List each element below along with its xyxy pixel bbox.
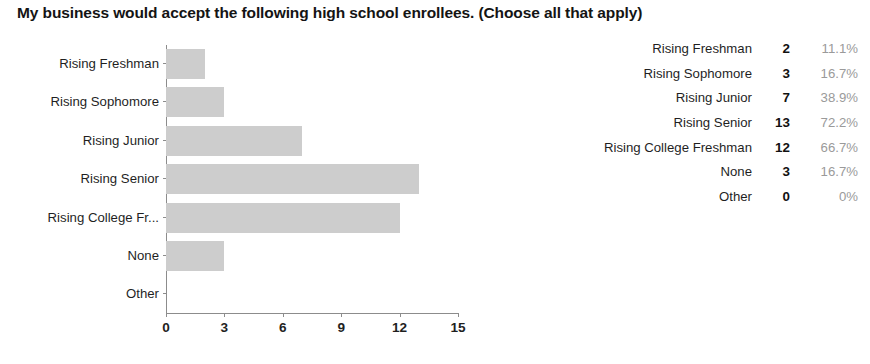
bar-category-label: Rising College Fr... xyxy=(48,203,159,233)
bar-row: Rising Sophomore xyxy=(166,83,458,121)
table-row: Rising Sophomore316.7% xyxy=(500,66,858,91)
x-axis-tick-label: 9 xyxy=(337,320,345,335)
bar-category-label: Rising Senior xyxy=(81,164,159,194)
bar xyxy=(166,241,224,271)
table-cell-count: 3 xyxy=(764,164,806,179)
table-cell-percent: 16.7% xyxy=(806,164,858,179)
bar xyxy=(166,87,224,117)
x-axis-tick-label: 3 xyxy=(221,320,229,335)
x-axis-tick xyxy=(283,313,284,317)
table-cell-percent: 72.2% xyxy=(806,115,858,130)
table-cell-label: Rising College Freshman xyxy=(500,140,764,155)
x-axis-tick xyxy=(458,313,459,317)
bar-chart: Rising FreshmanRising SophomoreRising Ju… xyxy=(0,40,500,360)
table-row: Other00% xyxy=(500,189,858,214)
table-cell-count: 3 xyxy=(764,66,806,81)
y-axis-tick xyxy=(163,293,166,294)
bar xyxy=(166,126,302,156)
plot-area: Rising FreshmanRising SophomoreRising Ju… xyxy=(166,45,458,313)
bar-row: Rising Senior xyxy=(166,160,458,198)
table-cell-label: Rising Senior xyxy=(500,115,764,130)
table-cell-count: 12 xyxy=(764,140,806,155)
table-row: Rising Senior1372.2% xyxy=(500,115,858,140)
bar-row: Rising College Fr... xyxy=(166,199,458,237)
table-cell-count: 13 xyxy=(764,115,806,130)
data-table: Rising Freshman211.1%Rising Sophomore316… xyxy=(500,41,858,214)
bar-category-label: Rising Freshman xyxy=(59,49,159,79)
x-axis-tick-label: 6 xyxy=(279,320,287,335)
x-axis-tick xyxy=(400,313,401,317)
bar xyxy=(166,49,205,79)
page-title: My business would accept the following h… xyxy=(17,4,642,22)
x-axis-tick-label: 0 xyxy=(162,320,170,335)
table-row: Rising Freshman211.1% xyxy=(500,41,858,66)
table-cell-percent: 66.7% xyxy=(806,140,858,155)
bar-row: Rising Junior xyxy=(166,122,458,160)
bar-category-label: Rising Junior xyxy=(83,126,159,156)
table-row: Rising Junior738.9% xyxy=(500,90,858,115)
bar-category-label: None xyxy=(127,241,159,271)
table-cell-label: Rising Junior xyxy=(500,90,764,105)
table-row: None316.7% xyxy=(500,164,858,189)
table-cell-label: None xyxy=(500,164,764,179)
table-cell-count: 7 xyxy=(764,90,806,105)
table-cell-percent: 0% xyxy=(806,189,858,204)
table-cell-count: 0 xyxy=(764,189,806,204)
table-cell-label: Rising Sophomore xyxy=(500,66,764,81)
table-row: Rising College Freshman1266.7% xyxy=(500,140,858,165)
bar-row: None xyxy=(166,237,458,275)
bar xyxy=(166,164,419,194)
x-axis-tick xyxy=(341,313,342,317)
table-cell-label: Rising Freshman xyxy=(500,41,764,56)
bar-row: Other xyxy=(166,275,458,313)
bar xyxy=(166,203,400,233)
bar-category-label: Rising Sophomore xyxy=(51,87,160,117)
x-axis-tick xyxy=(224,313,225,317)
x-axis-tick-label: 15 xyxy=(450,320,465,335)
bar-category-label: Other xyxy=(126,279,159,309)
x-axis-tick-label: 12 xyxy=(392,320,407,335)
table-cell-percent: 16.7% xyxy=(806,66,858,81)
table-cell-percent: 38.9% xyxy=(806,90,858,105)
bar-row: Rising Freshman xyxy=(166,45,458,83)
x-axis-tick xyxy=(166,313,167,317)
table-cell-label: Other xyxy=(500,189,764,204)
table-cell-percent: 11.1% xyxy=(806,41,858,56)
table-cell-count: 2 xyxy=(764,41,806,56)
